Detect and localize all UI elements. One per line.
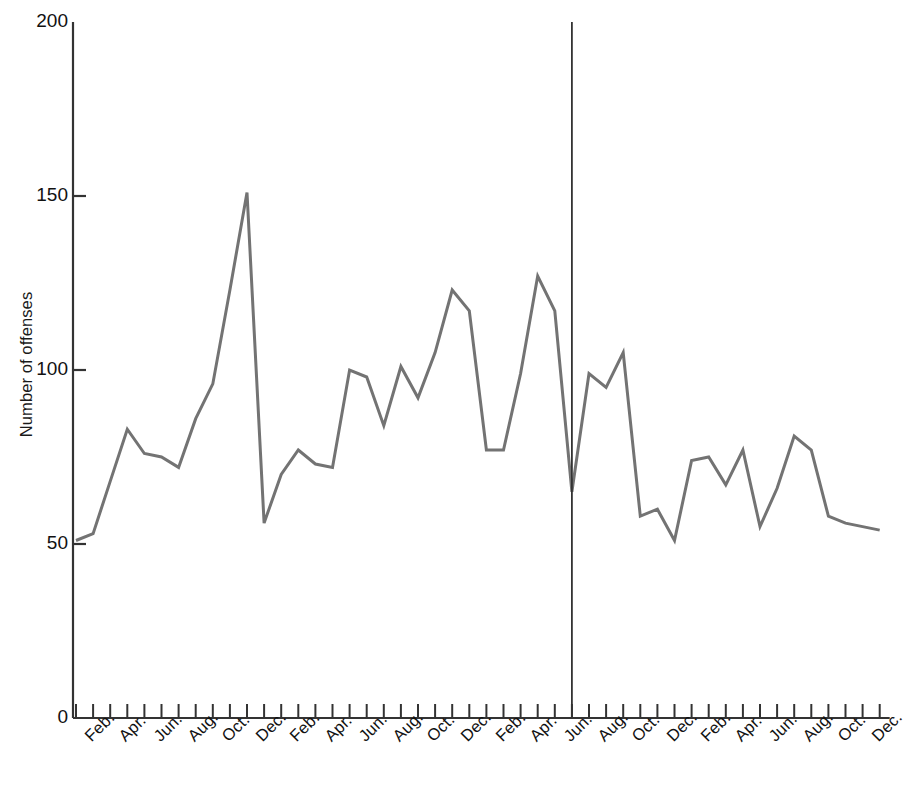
chart-container: Number of offenses 050100150200 Feb.Apr.… [0, 0, 904, 785]
data-series-line [76, 193, 880, 541]
plot-area [0, 0, 904, 785]
